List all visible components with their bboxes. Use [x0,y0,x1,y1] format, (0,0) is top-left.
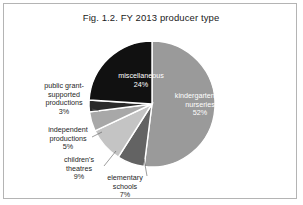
figure-frame: Fig. 1.2. FY 2013 producer type kinderga… [3,3,297,199]
slice-label-miscellaneous: miscellaneous 24% [108,72,174,89]
pie-chart: kindergartens & nurseries 52% miscellane… [4,4,298,200]
slice-label-public-grant-supported-productions: public grant- supported productions 3% [28,82,100,116]
slice-label-kindergartens-nurseries: kindergartens & nurseries 52% [164,92,236,118]
slice-label-elementary-schools: elementary schools 7% [92,174,158,200]
slice-label-independent-productions: independent productions 5% [34,126,102,152]
